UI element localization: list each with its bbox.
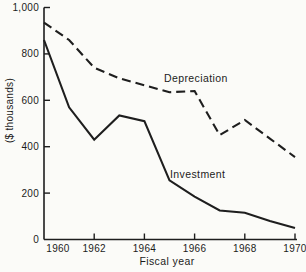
y-tick-label: 400 [21,141,39,152]
x-tick-label: 1968 [233,243,257,254]
y-tick-label: 800 [21,48,39,59]
depreciation-line [44,23,295,158]
plot-area: 02004006008001,0001960196219641966196819… [0,0,306,272]
series-label-depreciation: Depreciation [164,72,228,84]
x-tick-label: 1960 [46,243,70,254]
y-tick-label: 600 [21,95,39,106]
x-tick-label: 1970 [283,243,306,254]
x-tick-label: 1962 [82,243,106,254]
x-tick-label: 1966 [183,243,207,254]
line-chart-figure: 02004006008001,0001960196219641966196819… [0,0,306,272]
y-tick-label: 1,000 [12,2,39,13]
series-label-investment: Investment [170,168,225,180]
x-tick-label: 1964 [133,243,157,254]
y-axis-label: ($ thousands) [4,78,15,144]
y-tick-label: 0 [33,234,39,245]
x-axis-label: Fiscal year [44,255,290,267]
investment-line [44,40,295,228]
y-tick-label: 200 [21,188,39,199]
